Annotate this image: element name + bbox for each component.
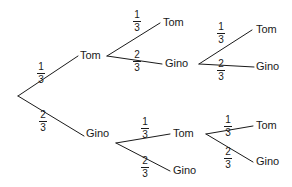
node-level1-top: Tom [80,50,101,61]
fraction-root-up: 1 3 [34,62,48,85]
node-level2-top-top: Tom [163,17,184,28]
fraction-root-down: 2 3 [36,110,50,133]
node-level3-b-top: Tom [256,120,277,131]
node-level2-bottom-top: Tom [173,128,194,139]
fraction-tom-up: 1 3 [130,10,144,33]
numerator: 1 [221,115,235,126]
node-level3-b-bottom: Gino [256,156,279,167]
numerator: 2 [221,147,235,158]
numerator: 2 [214,59,228,70]
numerator: 2 [36,110,50,121]
fraction-gino2-down: 2 3 [214,59,228,82]
numerator: 1 [138,117,152,128]
denominator: 3 [36,122,50,133]
denominator: 3 [221,159,235,170]
fraction-gino-up: 1 3 [138,117,152,140]
numerator: 1 [130,10,144,21]
node-level2-bottom-bottom: Gino [173,165,196,176]
node-level2-top-bottom: Gino [165,58,188,69]
numerator: 2 [138,156,152,167]
node-level3-a-bottom: Gino [256,61,279,72]
denominator: 3 [130,62,144,73]
denominator: 3 [214,71,228,82]
denominator: 3 [138,129,152,140]
node-level3-a-top: Tom [256,24,277,35]
denominator: 3 [221,127,235,138]
branch-root-up [18,56,78,96]
denominator: 3 [130,22,144,33]
numerator: 2 [130,50,144,61]
fraction-gino-down: 2 3 [138,156,152,179]
denominator: 3 [138,168,152,179]
probability-tree-diagram: Tom Gino Tom Gino Tom Gino Tom Gino Tom … [0,0,292,187]
fraction-tom2-down: 2 3 [221,147,235,170]
denominator: 3 [214,34,228,45]
fraction-tom2-up: 1 3 [221,115,235,138]
branch-root-down [18,96,84,136]
fraction-tom-down: 2 3 [130,50,144,73]
denominator: 3 [34,74,48,85]
fraction-gino2-up: 1 3 [214,22,228,45]
numerator: 1 [214,22,228,33]
numerator: 1 [34,62,48,73]
node-level1-bottom: Gino [86,128,109,139]
